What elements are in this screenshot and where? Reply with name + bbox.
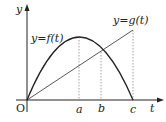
function-graph-diagram: y y=f(t) y=g(t) O a b c t — [0, 0, 166, 122]
y-axis-label: y — [16, 4, 22, 15]
tick-label-a: a — [76, 104, 83, 115]
t-axis-arrow-icon — [157, 98, 164, 103]
t-axis-label: t — [150, 103, 154, 114]
origin-label: O — [16, 103, 25, 114]
y-axis-arrow-icon — [25, 4, 30, 11]
curve-g-label: y=g(t) — [113, 15, 148, 26]
tick-label-c: c — [130, 104, 136, 115]
curve-f — [27, 37, 133, 100]
curve-f-label: y=f(t) — [31, 33, 64, 44]
tick-label-b: b — [98, 103, 105, 114]
